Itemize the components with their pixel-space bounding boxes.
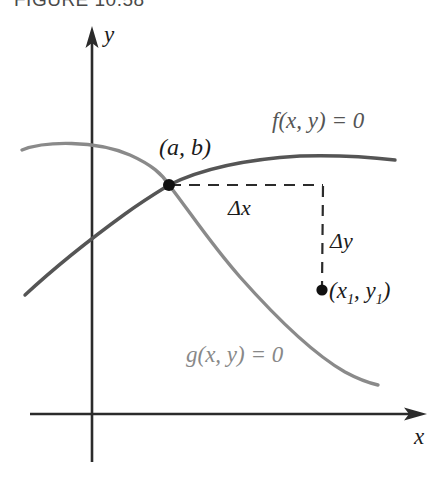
approximation-point-open: (x bbox=[329, 278, 347, 303]
approximation-point-sub-x: 1 bbox=[347, 291, 354, 307]
curve-g-label: g(x, y) = 0 bbox=[186, 342, 283, 368]
approximation-point-sub-y: 1 bbox=[376, 291, 383, 307]
figure-plot bbox=[0, 0, 442, 483]
curve-f-label: f(x, y) = 0 bbox=[272, 108, 364, 134]
delta-y-label: Δy bbox=[330, 228, 353, 254]
delta-y-dashed-line bbox=[322, 186, 323, 287]
approximation-point-label: (x1, y1) bbox=[329, 278, 391, 308]
intersection-point-label: (a, b) bbox=[159, 134, 211, 161]
delta-x-label: Δx bbox=[228, 195, 251, 221]
curve-f bbox=[25, 156, 395, 295]
y-axis-label: y bbox=[104, 22, 114, 48]
approximation-dot bbox=[316, 284, 327, 295]
approximation-point-sep: , y bbox=[354, 278, 376, 303]
x-axis-label: x bbox=[414, 424, 424, 450]
approximation-point-close: ) bbox=[383, 278, 391, 303]
figure-container: FIGURE 10.58 y x (a, b) f(x, y) = 0 g(x,… bbox=[0, 0, 442, 483]
intersection-dot bbox=[163, 179, 175, 191]
